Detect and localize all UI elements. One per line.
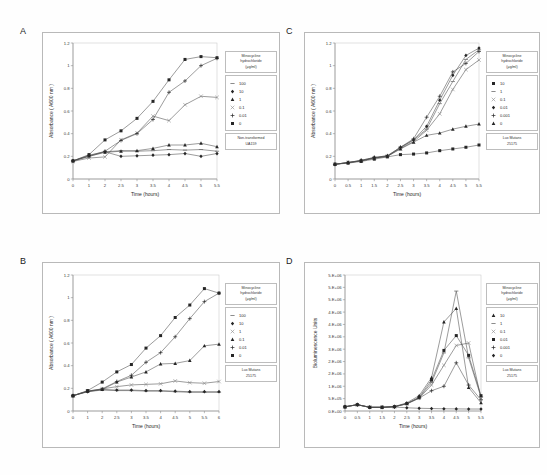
svg-text:0: 0 [72,183,75,188]
svg-text:1.5: 1.5 [371,183,377,188]
panel-d-legend-title: Minocycline hydrochloride (µg/ml) [486,283,538,305]
legend-item-label: 0 [500,121,502,126]
svg-text:0: 0 [67,177,70,182]
svg-text:0.E+00: 0.E+00 [328,409,342,414]
square-marker-icon [228,120,237,127]
panel-d-chart: 0.E+005.E+051.E+062.E+062.E+063.E+063.E+… [305,263,487,447]
svg-text:1: 1 [86,415,89,420]
legend-item-label: 0 [239,121,241,126]
legend-item: 1 [489,319,535,327]
svg-text:0: 0 [329,177,332,182]
legend-item-label: 10 [500,81,504,86]
svg-text:4: 4 [439,183,442,188]
figure-container: A 00.20.40.60.811.20122.533.544.555.5Tim… [0,0,547,475]
svg-text:3.E+06: 3.E+06 [328,347,342,352]
legend-item: 0.1 [489,327,535,335]
legend-item-label: 10 [239,321,243,326]
svg-text:1: 1 [329,63,332,68]
legend-item: 0.001 [489,343,535,351]
svg-text:2: 2 [393,415,396,420]
svg-text:1: 1 [88,183,91,188]
legend-item: 0 [228,119,274,127]
svg-text:3.5: 3.5 [150,183,156,188]
panel-a-strain-box: Non-transformed UA159 [225,133,277,150]
svg-text:2: 2 [104,183,107,188]
svg-text:5: 5 [189,415,192,420]
svg-text:1: 1 [67,63,70,68]
svg-text:2.5: 2.5 [398,183,404,188]
legend-item-label: 0.001 [500,113,510,118]
svg-text:5.5: 5.5 [201,415,207,420]
legend-item-label: 1 [239,329,241,334]
diamond-marker-icon [228,88,237,95]
svg-text:Absorbance ( A600 nm ): Absorbance ( A600 nm ) [310,84,316,138]
legend-item: 1 [228,327,274,335]
svg-text:Time (hours): Time (hours) [132,423,160,429]
svg-text:4: 4 [168,183,171,188]
tick-marker-icon [228,104,237,111]
strain-line-2: UA159 [227,142,275,147]
legend-title-line-3: (µg/ml) [488,297,536,302]
svg-text:5.E+05: 5.E+05 [328,396,342,401]
svg-text:0.5: 0.5 [345,183,351,188]
panel-b-strain-box: Lux Mutans 25175 [225,365,277,382]
svg-text:0.4: 0.4 [64,363,70,368]
panel-c-legend-items: 1010.10.010.0010 [486,75,538,131]
svg-text:5.E+06: 5.E+06 [328,273,342,278]
legend-item-label: 100 [239,81,246,86]
svg-text:5: 5 [200,183,203,188]
panel-b-letter: B [20,256,27,266]
legend-item-label: 1 [500,321,502,326]
svg-text:4: 4 [159,415,162,420]
svg-text:3: 3 [130,415,133,420]
svg-text:2.5: 2.5 [114,415,120,420]
strain-line-2: 25175 [227,374,275,379]
panel-d-legend-items: 1010.10.010.0010 [486,307,538,363]
svg-text:0.2: 0.2 [64,386,70,391]
panel-a: A 00.20.40.60.811.20122.533.544.555.5Tim… [16,24,282,220]
svg-text:1.2: 1.2 [326,41,332,46]
strain-line-2: 25175 [488,142,536,147]
plus-marker-icon [228,112,237,119]
svg-text:0.8: 0.8 [326,86,332,91]
svg-text:0: 0 [72,415,75,420]
legend-item-label: 0 [500,353,502,358]
panel-b-frame: 00.20.40.60.811.20122.533.544.555.56Time… [42,262,280,448]
legend-item: 10 [228,87,274,95]
dash-marker-icon [489,88,498,95]
square-marker-icon [489,80,498,87]
legend-item-label: 0.001 [500,345,510,350]
svg-text:0.8: 0.8 [64,318,70,323]
legend-item-label: 10 [239,89,243,94]
diamond-marker-icon [489,104,498,111]
plus-marker-icon [228,344,237,351]
dash-marker-icon [228,312,237,319]
svg-text:Time (hours): Time (hours) [393,191,421,197]
legend-item: 0.1 [228,103,274,111]
panel-c-letter: C [286,26,293,36]
svg-text:3.5: 3.5 [143,415,149,420]
triangle-marker-icon [228,96,237,103]
legend-item-label: 0.01 [239,345,247,350]
triangle-marker-icon [489,312,498,319]
svg-text:2.5: 2.5 [118,183,124,188]
panel-c-legend: Minocycline hydrochloride (µg/ml) 1010.1… [486,51,538,150]
panel-b: B 00.20.40.60.811.20122.533.544.555.56Ti… [16,252,282,452]
legend-item: 0.01 [489,103,535,111]
svg-text:5.5: 5.5 [478,415,484,420]
legend-item: 100 [228,311,274,319]
legend-item-label: 0.1 [500,329,506,334]
svg-text:0.2: 0.2 [326,154,332,159]
legend-item: 10 [489,311,535,319]
svg-text:0.6: 0.6 [326,109,332,114]
svg-text:3: 3 [412,183,415,188]
tick-marker-icon [489,96,498,103]
panel-a-legend-title: Minocycline hydrochloride (µg/ml) [225,51,277,73]
svg-text:0.6: 0.6 [64,109,70,114]
svg-text:5.E+06: 5.E+06 [328,285,342,290]
dash-marker-icon [228,80,237,87]
panel-d-frame: 0.E+005.E+051.E+062.E+062.E+063.E+063.E+… [304,262,540,448]
legend-title-line-3: (µg/ml) [227,65,275,70]
svg-text:0.2: 0.2 [64,154,70,159]
dash-marker-icon [489,320,498,327]
